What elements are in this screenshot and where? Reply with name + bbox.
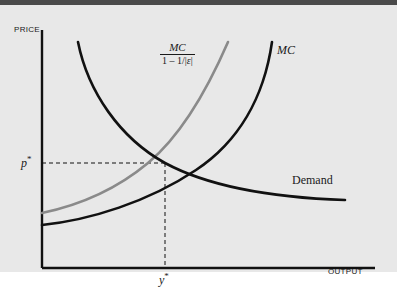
curve-label-demand: Demand [292, 174, 333, 186]
curve-marginal-cost [42, 42, 272, 225]
curve-label-mc: MC [277, 44, 295, 56]
chart-plot-area [0, 0, 418, 299]
x-axis-label: OUTPUT [328, 268, 363, 276]
markup-denominator-prefix: 1 – 1/| [162, 55, 187, 66]
axis-marker-y-star: y* [159, 272, 169, 286]
y-star-asterisk: * [164, 271, 169, 281]
figure-root: PRICE OUTPUT MC Demand p* y* MC 1 – 1/|ε… [0, 0, 418, 299]
markup-denominator: 1 – 1/|ε| [160, 55, 195, 66]
axis-marker-p-star: p* [21, 155, 32, 169]
curve-markup-price [42, 42, 228, 213]
markup-denominator-suffix: | [191, 55, 193, 66]
markup-numerator: MC [160, 42, 195, 54]
curve-label-markup-formula: MC 1 – 1/|ε| [160, 42, 195, 66]
p-star-asterisk: * [27, 154, 32, 164]
y-axis-label: PRICE [14, 26, 40, 34]
